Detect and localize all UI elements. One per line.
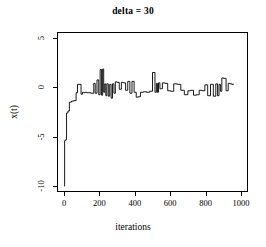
y-tick-label: -10 (36, 180, 46, 191)
x-tickmark (135, 192, 136, 196)
x-tickmark (206, 192, 207, 196)
chart-title: delta = 30 (0, 6, 266, 16)
x-tick-label: 200 (93, 198, 106, 208)
x-tick-label: 0 (62, 198, 66, 208)
x-axis-label: iterations (0, 222, 266, 232)
x-tickmark (99, 192, 100, 196)
x-tick-label: 1000 (232, 198, 249, 208)
y-tick-label: 5 (36, 36, 46, 40)
trace-polyline (64, 69, 234, 186)
x-tick-label: 800 (199, 198, 212, 208)
y-tick-label: 0 (36, 85, 46, 89)
y-tick-label: -5 (36, 133, 46, 140)
chart-figure: delta = 30 x(t) iterations 0200400600800… (0, 0, 266, 247)
x-tickmark (64, 192, 65, 196)
y-axis-label: x(t) (9, 105, 19, 119)
x-tick-label: 600 (164, 198, 177, 208)
plot-area (57, 32, 248, 192)
x-tickmark (170, 192, 171, 196)
trace-line-series (57, 32, 248, 192)
x-tickmark (241, 192, 242, 196)
x-tick-label: 400 (128, 198, 141, 208)
